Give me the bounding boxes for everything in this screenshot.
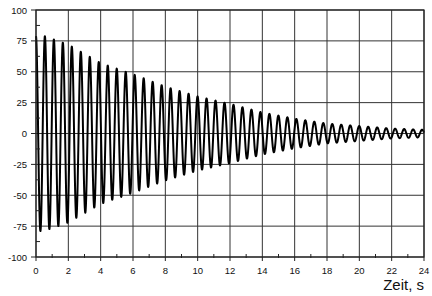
x-tick-label: 2 — [66, 265, 71, 276]
y-tick-label: 50 — [16, 66, 27, 77]
x-tick-label: 16 — [289, 265, 300, 276]
x-tick-label: 24 — [419, 265, 430, 276]
x-tick-label: 22 — [386, 265, 397, 276]
x-tick-label: 4 — [98, 265, 103, 276]
chart: 0246810121416182022241007550250-25-50-75… — [0, 0, 432, 296]
y-tick-label: -100 — [8, 252, 27, 263]
x-tick-label: 8 — [163, 265, 168, 276]
x-tick-label: 0 — [33, 265, 38, 276]
x-tick-label: 14 — [257, 265, 268, 276]
y-tick-label: 0 — [22, 128, 27, 139]
y-tick-label: 75 — [16, 35, 27, 46]
x-tick-label: 20 — [354, 265, 365, 276]
y-tick-label: 100 — [11, 5, 27, 16]
x-tick-label: 12 — [225, 265, 236, 276]
y-tick-label: -50 — [13, 190, 27, 201]
x-axis-title: Zeit, s — [383, 276, 424, 293]
y-tick-label: -25 — [13, 159, 27, 170]
y-tick-label: -75 — [13, 221, 27, 232]
x-tick-label: 18 — [322, 265, 333, 276]
x-tick-label: 6 — [130, 265, 135, 276]
y-tick-label: 25 — [16, 97, 27, 108]
x-tick-label: 10 — [192, 265, 203, 276]
